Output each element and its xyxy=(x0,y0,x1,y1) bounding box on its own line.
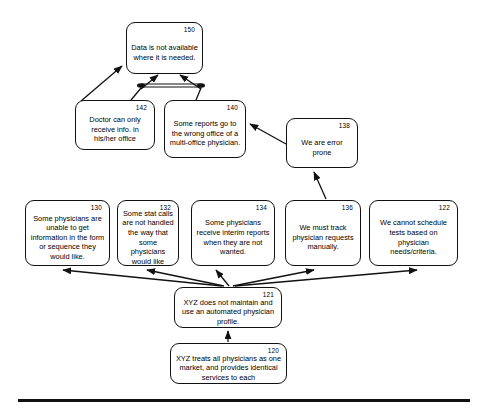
edge-121-to-136 xyxy=(233,270,314,286)
node-130[interactable]: 130 Some physicians are unable to get in… xyxy=(25,200,110,266)
node-142-text: Doctor can only receive info. in his/her… xyxy=(76,106,154,144)
node-140[interactable]: 140 Some reports go to the wrong office … xyxy=(164,100,246,158)
node-122-ref: 122 xyxy=(439,204,450,211)
node-120[interactable]: 120 XYZ treats all physicians as one mar… xyxy=(170,343,287,384)
node-140-ref: 140 xyxy=(227,104,238,111)
edge-121-to-134 xyxy=(216,270,229,286)
node-138-ref: 138 xyxy=(339,122,350,129)
node-122-text: We cannot schedule tests based on physic… xyxy=(370,209,457,256)
edge-138-to-140 xyxy=(250,124,286,144)
edge-140-junction-to-150 xyxy=(180,75,201,100)
node-136[interactable]: 136 We must track physician requests man… xyxy=(285,200,361,266)
node-138[interactable]: 138 We are error prone xyxy=(286,118,358,168)
node-142-ref: 142 xyxy=(136,104,147,111)
node-121[interactable]: 121 XYZ does not maintain and use an aut… xyxy=(174,287,282,328)
node-136-text: We must track physician requests manuall… xyxy=(286,214,360,252)
edge-142-junction-to-150 xyxy=(131,75,158,100)
node-140-text: Some reports go to the wrong office of a… xyxy=(165,110,245,148)
node-150[interactable]: 150 Data is not available where it is ne… xyxy=(126,22,203,74)
node-122[interactable]: 122 We cannot schedule tests based on ph… xyxy=(369,200,458,266)
page-footer-rule xyxy=(18,399,470,402)
node-120-ref: 120 xyxy=(268,347,279,354)
edge-121-to-130 xyxy=(63,270,222,286)
node-136-ref: 136 xyxy=(342,204,353,211)
node-130-ref: 130 xyxy=(91,204,102,211)
and-junction-bar xyxy=(137,83,205,87)
node-150-ref: 150 xyxy=(184,26,195,33)
edge-142-to-150 xyxy=(81,66,122,101)
node-130-text: Some physicians are unable to get inform… xyxy=(26,205,109,262)
node-138-text: We are error prone xyxy=(287,129,357,157)
node-132-ref: 132 xyxy=(160,204,171,211)
edge-136-to-138 xyxy=(314,172,326,199)
node-132[interactable]: 132 Some stat calls are not handled the … xyxy=(117,200,179,266)
edge-121-to-122 xyxy=(235,270,417,286)
node-142[interactable]: 142 Doctor can only receive info. in his… xyxy=(75,100,155,150)
node-134-ref: 134 xyxy=(256,204,267,211)
edge-121-to-132 xyxy=(147,270,224,286)
node-134-text: Some physicians receive interim reports … xyxy=(192,209,274,256)
node-134[interactable]: 134 Some physicians receive interim repo… xyxy=(191,200,275,266)
node-150-text: Data is not available where it is needed… xyxy=(127,34,202,62)
diagram-canvas: 150 Data is not available where it is ne… xyxy=(0,0,487,418)
node-121-ref: 121 xyxy=(263,291,274,298)
